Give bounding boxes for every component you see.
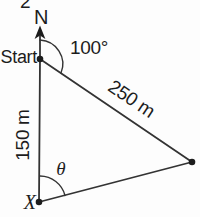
start-label: Start bbox=[0, 47, 37, 67]
bearing-diagram: 2 N Start 100° 250 m 150 m θ X bbox=[0, 0, 200, 217]
question-number: 2 bbox=[20, 0, 30, 12]
diagram-canvas: 2 N Start 100° 250 m 150 m θ X bbox=[0, 0, 200, 217]
far-point-dot bbox=[189, 159, 196, 166]
bearing-angle-arc bbox=[40, 40, 63, 73]
start-point-dot bbox=[37, 56, 44, 63]
hypotenuse-length-label: 250 m bbox=[104, 76, 158, 122]
bearing-angle-label: 100° bbox=[70, 37, 108, 58]
x-label: X bbox=[23, 191, 37, 213]
theta-label: θ bbox=[56, 158, 65, 179]
vertical-side-line bbox=[39, 59, 40, 202]
x-point-dot bbox=[36, 199, 43, 206]
diagram-labels: 2 N Start 100° 250 m 150 m θ X bbox=[0, 0, 158, 213]
vertical-length-label: 150 m bbox=[12, 109, 33, 160]
north-label: N bbox=[34, 6, 48, 28]
